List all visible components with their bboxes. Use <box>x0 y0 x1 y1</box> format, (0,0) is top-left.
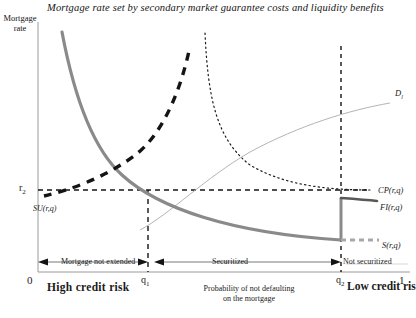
x-axis-label: Probability of not defaulting on the mor… <box>190 284 308 303</box>
x-tick-origin: 0 <box>27 274 33 286</box>
annotation-low-credit-risk: Low credit risk <box>347 280 395 293</box>
x-tick-q1-sub: 1 <box>146 280 150 288</box>
bracket-label-not-securitized: Not securitized <box>343 257 392 266</box>
curve-label-dl-sub: l <box>401 94 403 100</box>
curve-label-dl: Dl <box>395 88 403 100</box>
x-tick-q1: q1 <box>141 274 150 288</box>
curve-label-s: S(r,q) <box>382 240 401 250</box>
bracket-label-mortgage-not-extended: Mortgage not extended <box>61 257 135 266</box>
bracket-label-securitized: Securitized <box>212 257 248 266</box>
curve-fi-right <box>341 198 377 201</box>
page-title: Mortgage rate set by secondary market gu… <box>47 2 384 13</box>
y-tick-r2-sub: 2 <box>22 188 26 196</box>
curve-cp <box>205 33 371 190</box>
curve-label-fi: FI(r,q) <box>380 202 402 212</box>
curve-fi-left <box>62 32 341 240</box>
chart-canvas: Mortgage rate set by secondary market gu… <box>0 0 416 318</box>
y-axis-label-line2: rate <box>2 24 38 34</box>
annotation-high-credit-risk: High credit risk <box>47 281 130 293</box>
y-axis-label: Mortgage rate <box>2 14 38 33</box>
chart-vector-layer <box>0 0 416 318</box>
curve-label-su: SU(r,q) <box>33 204 56 213</box>
y-tick-r2: r2 <box>19 182 26 196</box>
x-axis-label-line2: on the mortgage <box>190 294 308 304</box>
curve-dl <box>140 103 390 230</box>
x-tick-q2: q2 <box>336 274 345 288</box>
x-axis-label-line1: Probability of not defaulting <box>190 284 308 294</box>
x-tick-q2-sub: 2 <box>341 280 345 288</box>
curve-label-cp: CP(r,q) <box>378 185 403 195</box>
curve-su <box>44 46 190 196</box>
